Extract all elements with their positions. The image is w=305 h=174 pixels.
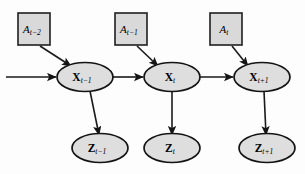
edge-layer <box>6 46 266 135</box>
state-node-x-t[interactable]: Xt <box>144 63 200 92</box>
action-node-a-t-minus-2[interactable]: At−2 <box>18 13 50 45</box>
observation-node-z-t[interactable]: Zt <box>144 134 200 163</box>
edge-a-t-minus-2-to-x-t-minus-1 <box>40 46 71 66</box>
state-node-x-t-plus-1[interactable]: Xt+1 <box>234 63 290 92</box>
state-node-x-t-minus-1[interactable]: Xt−1 <box>57 63 113 92</box>
edge-x-t-minus-1-to-z-t-minus-1 <box>90 91 99 135</box>
action-node-a-t-minus-1[interactable]: At−1 <box>115 13 147 45</box>
edge-a-t-to-x-t-plus-1 <box>232 46 248 66</box>
observation-node-z-t-minus-1[interactable]: Zt−1 <box>72 134 128 163</box>
bayes-network-diagram: At−2 At−1 At Xt−1 Xt <box>0 0 305 174</box>
edge-a-t-minus-1-to-x-t <box>137 46 158 66</box>
action-node-a-t[interactable]: At <box>210 13 242 45</box>
observation-node-z-t-plus-1[interactable]: Zt+1 <box>239 134 295 163</box>
network-canvas: At−2 At−1 At Xt−1 Xt <box>0 0 305 174</box>
edge-x-t-plus-1-to-z-t-plus-1 <box>264 91 266 135</box>
